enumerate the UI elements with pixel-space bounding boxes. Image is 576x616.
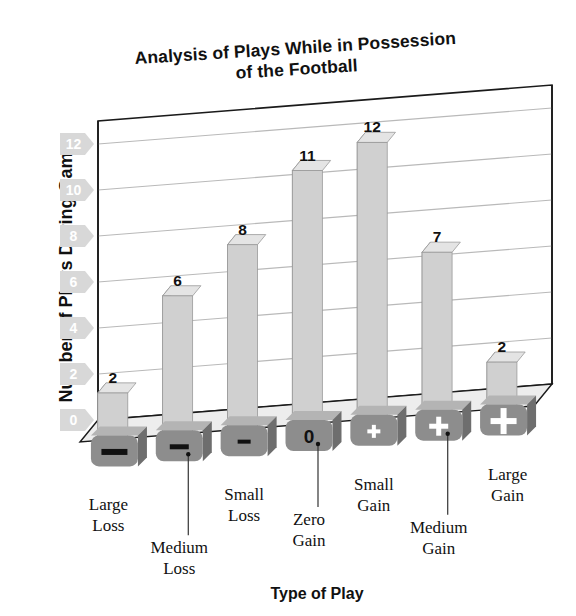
bar-chart-3d: 024681012268111272LargeLossMediumLossSma… [0, 0, 576, 616]
category-label-4-line2: Gain [357, 496, 391, 515]
y-tick-label-12: 12 [66, 136, 82, 152]
bar-front-1[interactable] [163, 296, 193, 434]
tile-glyph-plus-v-4 [372, 425, 376, 438]
bar-value-label-3: 11 [299, 147, 316, 164]
y-tick-label-10: 10 [66, 182, 82, 198]
chart-plot-area: 024681012268111272LargeLossMediumLossSma… [0, 0, 576, 616]
category-label-6-line1: Large [488, 465, 527, 484]
tile-glyph-minus-0 [101, 449, 127, 455]
category-label-6-line2: Gain [491, 486, 525, 505]
category-leader-dot-5 [446, 432, 450, 436]
bar-value-label-4: 12 [364, 118, 381, 135]
category-label-3-line1: Zero [293, 510, 325, 529]
bar-value-label-6: 2 [498, 338, 507, 355]
category-label-5-line1: Medium [410, 518, 468, 537]
category-label-2-line1: Small [224, 485, 264, 504]
category-label-2-line2: Loss [228, 506, 260, 525]
bar-value-label-5: 7 [433, 228, 442, 245]
category-label-5-line2: Gain [422, 539, 456, 558]
bar-front-4[interactable] [357, 142, 387, 418]
category-tile-top-1 [156, 421, 212, 430]
category-label-0-line1: Large [89, 495, 128, 514]
category-tile-top-5 [415, 401, 471, 410]
category-label-1-line2: Loss [163, 559, 195, 578]
tile-glyph-plus-v-5 [436, 417, 441, 436]
y-tick-label-0: 0 [70, 412, 78, 428]
y-tick-label-4: 4 [70, 320, 78, 336]
bar-front-5[interactable] [422, 252, 452, 413]
bar-front-3[interactable] [292, 171, 322, 424]
bar-value-label-1: 6 [173, 272, 182, 289]
tile-glyph-minus-2 [238, 440, 251, 444]
y-tick-label-6: 6 [70, 274, 78, 290]
y-tick-label-2: 2 [70, 366, 78, 382]
tile-glyph-plus-v-6 [501, 408, 507, 434]
category-tile-top-2 [221, 416, 277, 425]
bar-front-2[interactable] [228, 245, 258, 429]
category-leader-dot-1 [186, 452, 190, 456]
category-label-3-line2: Gain [292, 531, 326, 550]
category-tile-top-0 [91, 426, 147, 435]
category-tile-top-4 [350, 406, 406, 415]
category-tile-top-6 [480, 396, 536, 405]
category-label-4-line1: Small [354, 475, 394, 494]
tile-glyph-zero-3: 0 [304, 426, 315, 447]
category-label-1-line1: Medium [150, 538, 208, 557]
y-tick-label-8: 8 [70, 228, 78, 244]
category-leader-dot-3 [316, 442, 320, 446]
bar-value-label-0: 2 [108, 369, 117, 386]
tile-glyph-minus-1 [170, 444, 189, 449]
category-label-0-line2: Loss [92, 516, 124, 535]
category-tile-top-3 [286, 411, 342, 420]
bar-value-label-2: 8 [238, 221, 247, 238]
